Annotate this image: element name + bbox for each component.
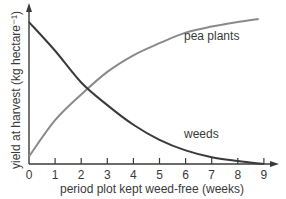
weeds-label: weeds bbox=[183, 127, 219, 141]
x-tick-label: 6 bbox=[182, 168, 189, 182]
x-tick-label: 4 bbox=[130, 168, 137, 182]
pea-plants-label: pea plants bbox=[184, 29, 239, 43]
yield-chart: 0123456789 pea plants weeds period plot … bbox=[0, 0, 286, 199]
x-tick-label: 3 bbox=[104, 168, 111, 182]
x-tick-label: 0 bbox=[26, 168, 33, 182]
y-axis-title: yield at harvest (kg hectare⁻¹) bbox=[9, 11, 23, 169]
x-axis-ticks: 0123456789 bbox=[26, 158, 268, 182]
x-axis-title: period plot kept weed-free (weeks) bbox=[60, 182, 244, 196]
x-tick-label: 9 bbox=[261, 168, 268, 182]
x-tick-label: 7 bbox=[208, 168, 215, 182]
x-tick-label: 2 bbox=[78, 168, 85, 182]
x-tick-label: 5 bbox=[156, 168, 163, 182]
y-axis-arrow-icon bbox=[26, 3, 32, 12]
weeds-curve bbox=[29, 22, 264, 164]
x-tick-label: 1 bbox=[52, 168, 59, 182]
x-tick-label: 8 bbox=[234, 168, 241, 182]
x-axis-arrow-icon bbox=[270, 161, 279, 167]
